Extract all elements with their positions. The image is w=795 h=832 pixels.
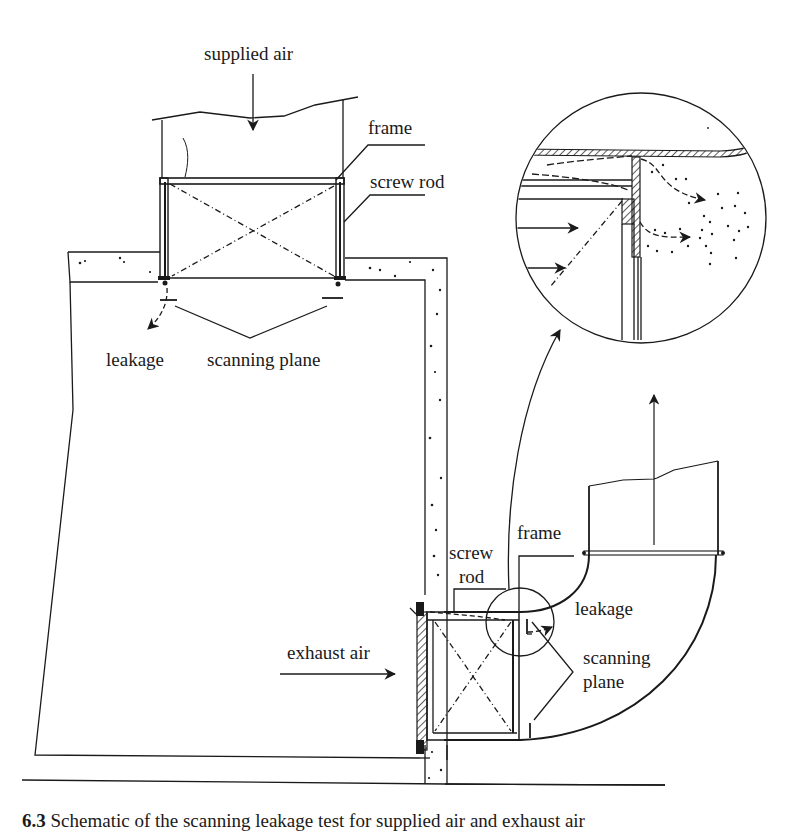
detail-circle-small — [486, 588, 554, 656]
label-screw-rod-top: screw rod — [370, 172, 444, 191]
detail-pointer-arrow — [508, 330, 560, 590]
label-leakage-top: leakage — [106, 350, 164, 369]
label-screw-rod-bottom-2: rod — [459, 567, 484, 586]
caption-text: Schematic of the scanning leakage test f… — [51, 810, 585, 831]
label-scanning-plane-top: scanning plane — [207, 350, 320, 369]
label-leakage-bottom: leakage — [575, 599, 633, 618]
label-scanning-plane-bottom-1: scanning — [583, 648, 651, 667]
leakage-arrow-top — [148, 288, 167, 329]
label-scanning-plane-bottom-2: plane — [583, 672, 624, 691]
detail-magnifier — [515, 93, 766, 343]
top-filter-housing — [158, 178, 346, 287]
leakage-arrow-bottom — [528, 627, 552, 632]
label-frame-bottom: frame — [517, 523, 561, 542]
caption-number: 6.3 — [22, 810, 46, 831]
label-frame-top: frame — [368, 118, 412, 137]
scanning-plane-top — [160, 298, 343, 338]
label-exhaust-air: exhaust air — [287, 643, 370, 662]
figure-caption: 6.3 Schematic of the scanning leakage te… — [22, 810, 585, 832]
lower-filter-housing — [410, 602, 519, 754]
screw-rod-leader-top — [344, 195, 425, 222]
label-screw-rod-bottom-1: screw — [449, 543, 493, 562]
label-supplied-air: supplied air — [204, 44, 293, 63]
supply-duct — [152, 97, 358, 178]
room-outline — [35, 252, 665, 785]
concrete-texture — [79, 257, 443, 779]
screw-rod-leader-bottom — [454, 589, 506, 612]
frame-leader-bottom — [519, 556, 574, 612]
floor-line — [22, 780, 665, 785]
